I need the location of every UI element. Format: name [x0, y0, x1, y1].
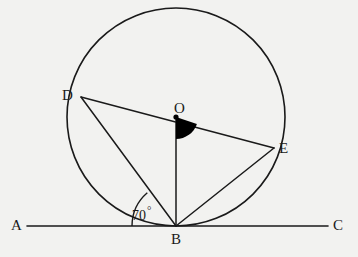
point-label-d: D	[62, 88, 73, 103]
segment-db	[81, 97, 176, 226]
geometry-canvas	[0, 0, 358, 257]
geometry-figure: A B C D E O 70°	[0, 0, 358, 257]
degree-symbol: °	[147, 204, 151, 216]
angle-value-b: 70	[132, 208, 146, 223]
angle-sector-o	[176, 117, 197, 139]
angle-label-b: 70°	[132, 205, 151, 223]
point-label-b: B	[171, 232, 181, 247]
point-label-e: E	[279, 141, 288, 156]
point-label-c: C	[333, 218, 343, 233]
point-label-a: A	[11, 218, 22, 233]
point-label-o: O	[174, 101, 185, 116]
